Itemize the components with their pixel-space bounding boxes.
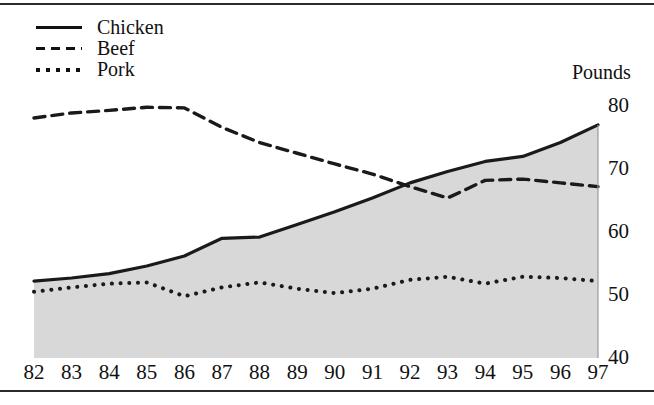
chart-figure: Chicken Beef Pork Pounds 4050607080 8283…: [0, 0, 654, 405]
x-tick-label: 88: [243, 362, 277, 383]
x-tick-label: 96: [543, 362, 577, 383]
x-tick-label: 97: [581, 362, 615, 383]
x-tick-label: 92: [393, 362, 427, 383]
x-tick-label: 93: [431, 362, 465, 383]
plot-area: [0, 0, 654, 405]
x-tick-label: 89: [280, 362, 314, 383]
x-tick-label: 94: [468, 362, 502, 383]
y-tick-label: 50: [608, 284, 629, 305]
y-tick-label: 60: [608, 221, 629, 242]
x-tick-label: 90: [318, 362, 352, 383]
x-tick-label: 85: [130, 362, 164, 383]
x-tick-label: 87: [205, 362, 239, 383]
x-tick-label: 95: [506, 362, 540, 383]
y-tick-label: 80: [608, 95, 629, 116]
x-tick-label: 84: [92, 362, 126, 383]
x-tick-label: 82: [17, 362, 51, 383]
x-tick-label: 86: [167, 362, 201, 383]
x-tick-label: 83: [55, 362, 89, 383]
y-tick-label: 70: [608, 158, 629, 179]
x-tick-label: 91: [355, 362, 389, 383]
